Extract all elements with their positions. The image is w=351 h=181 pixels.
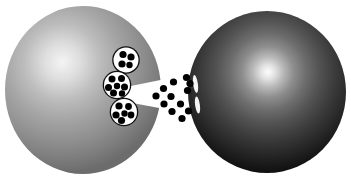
- vesicle-particle: [105, 84, 112, 91]
- neurotransmitter-particle: [177, 100, 184, 107]
- vesicle-particle: [119, 90, 125, 96]
- neurotransmitter-particle: [183, 74, 190, 81]
- vesicle-particle: [118, 117, 125, 124]
- neurotransmitter-particle: [160, 85, 167, 92]
- vesicle-particle: [109, 76, 116, 83]
- figure-canvas: [0, 0, 351, 181]
- vesicle-particle: [118, 75, 125, 82]
- vesicle-lumen: [114, 48, 139, 73]
- vesicle-particle: [125, 103, 132, 110]
- neurotransmitter-particle: [167, 93, 174, 100]
- postsynaptic-cell-body: [188, 11, 346, 173]
- neurotransmitter-particle: [170, 78, 177, 85]
- vesicle-particle: [112, 111, 119, 118]
- vesicle: [110, 98, 139, 127]
- vesicle-particle: [121, 84, 128, 91]
- vesicle-particle: [118, 60, 125, 67]
- vesicle: [103, 71, 132, 100]
- vesicle-particle: [128, 112, 135, 119]
- vesicle-particle: [110, 90, 117, 97]
- neurotransmitter-particle: [160, 100, 167, 107]
- vesicle-particle: [114, 83, 120, 89]
- vesicle-particle: [127, 53, 134, 60]
- neurotransmitter-particle: [186, 80, 193, 87]
- vesicle-particle: [121, 110, 127, 116]
- neurotransmitter-particle: [178, 115, 185, 122]
- vesicle-particle: [126, 62, 132, 68]
- synapse-diagram: [0, 0, 351, 181]
- vesicle-particle: [115, 102, 122, 109]
- neurotransmitter-particle: [184, 87, 191, 94]
- neurotransmitter-particle: [152, 92, 159, 99]
- postsynaptic-cell-group: [188, 11, 346, 173]
- neurotransmitter-particle: [185, 107, 192, 114]
- neurotransmitter-particle: [168, 108, 175, 115]
- vesicle: [112, 46, 140, 74]
- vesicle-particle: [119, 51, 126, 58]
